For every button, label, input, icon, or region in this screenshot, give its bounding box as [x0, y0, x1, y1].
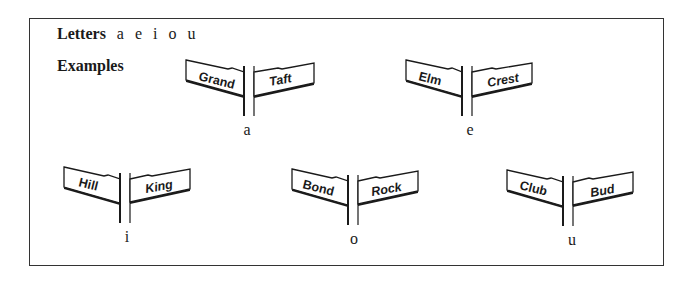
letter-a: a [117, 25, 124, 42]
vowel-label-i: i [117, 228, 137, 246]
letters-label: Letters [57, 25, 106, 42]
letter-u: u [188, 25, 196, 42]
street-sign-icon: Elm Crest [404, 58, 544, 120]
vowel-label-e: e [460, 121, 480, 139]
letter-i: i [153, 25, 157, 42]
vowel-label-o: o [344, 230, 364, 248]
street-sign-icon: Grand Taft [184, 58, 324, 120]
letter-e: e [135, 25, 142, 42]
street-sign-icon: Club Bud [505, 168, 645, 230]
street-sign-icon: Bond Rock [290, 167, 430, 229]
examples-label: Examples [57, 56, 124, 76]
vowel-label-a: a [237, 121, 257, 139]
letter-o: o [169, 25, 177, 42]
street-sign-icon: Hill King [62, 165, 202, 227]
letters-heading: Lettersaeiou [57, 24, 196, 44]
vowel-label-u: u [562, 231, 582, 249]
